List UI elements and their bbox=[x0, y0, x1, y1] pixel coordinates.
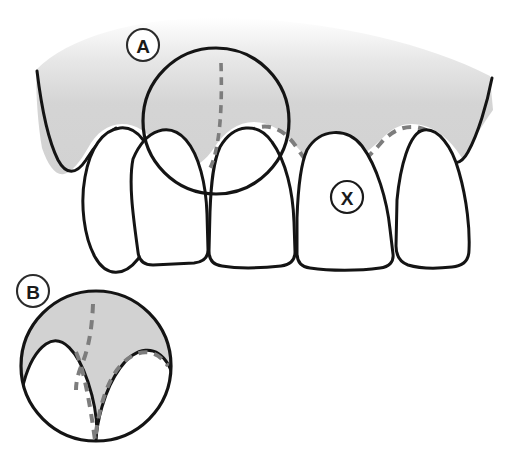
label-b: B bbox=[17, 275, 49, 307]
label-x-text: X bbox=[341, 188, 354, 209]
magnified-detail-b bbox=[18, 288, 178, 448]
dental-diagram-root: A B X bbox=[0, 0, 519, 456]
dental-diagram-svg: A B X bbox=[0, 0, 519, 456]
main-illustration bbox=[36, 18, 493, 272]
label-b-text: B bbox=[26, 282, 40, 303]
label-a-text: A bbox=[136, 36, 150, 57]
label-a: A bbox=[127, 29, 159, 61]
